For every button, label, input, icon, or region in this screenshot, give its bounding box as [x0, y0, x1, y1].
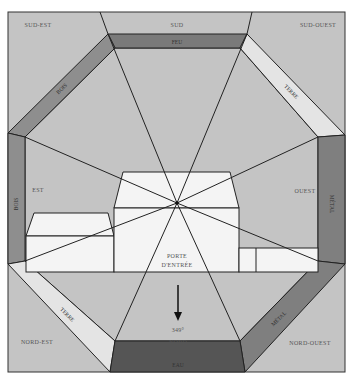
label-sud: SUD — [171, 22, 184, 28]
label-bearing: 349° — [172, 327, 185, 333]
label-nord-est: NORD-EST — [21, 339, 53, 345]
label-bois-vertical: BOIS — [13, 198, 19, 211]
label-est: EST — [32, 187, 44, 193]
label-eau: EAU — [172, 362, 183, 368]
label-nord: NORD — [169, 339, 188, 345]
label-porte: PORTE — [167, 253, 187, 259]
right-wing — [239, 248, 318, 272]
label-feu: FEU — [172, 39, 182, 45]
center-point — [175, 201, 179, 205]
left-wing-body — [26, 236, 114, 272]
label-sud-ouest: SUD-OUEST — [300, 22, 336, 28]
label-nord-ouest: NORD-OUEST — [289, 340, 330, 346]
bagua-diagram: SUD-EST SUD SUD-OUEST EST OUEST NORD-EST… — [0, 0, 355, 382]
label-dentree: D'ENTRÉE — [162, 261, 193, 268]
label-ouest: OUEST — [295, 188, 316, 194]
label-metal-vertical: MÉTAL — [329, 195, 336, 214]
label-sud-est: SUD-EST — [25, 22, 52, 28]
